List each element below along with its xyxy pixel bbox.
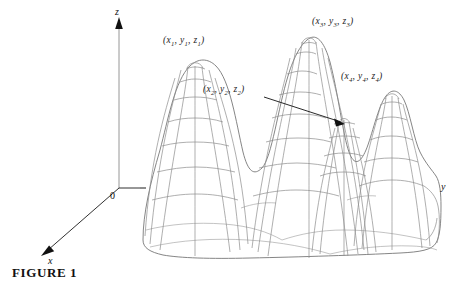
point-label-2: (x2, y2, z2) [203, 84, 245, 96]
point-label-4: (x4, y4, z4) [341, 71, 383, 83]
z-axis-arrowhead [115, 17, 123, 29]
x-axis-line [48, 188, 119, 250]
surface-group [143, 37, 441, 258]
figure-caption: FIGURE 1 [12, 265, 77, 281]
surface-plot-svg [0, 0, 459, 291]
figure-canvas: (x1, y1, z1) (x2, y2, z2) (x3, y3, z3) (… [0, 0, 459, 291]
z-axis-label: z [115, 6, 119, 17]
origin-label: 0 [110, 190, 115, 201]
y-axis-label: y [441, 181, 445, 192]
point-label-3: (x3, y3, z3) [312, 16, 354, 28]
point-label-1: (x1, y1, z1) [163, 35, 205, 47]
